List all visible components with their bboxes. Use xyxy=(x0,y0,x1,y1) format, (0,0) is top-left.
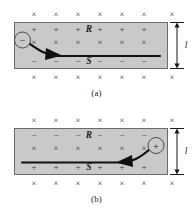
field-cross-icon: × xyxy=(32,115,37,125)
field-cross-icon: × xyxy=(142,178,147,188)
field-cross-icon: × xyxy=(170,115,175,125)
charge-minus-icon: − xyxy=(31,56,36,66)
dimension-label-l-a: l xyxy=(185,40,188,50)
figure-panel-b: × × × × × × × − − − − − − R × × × × × × xyxy=(0,106,193,213)
charge-plus-icon: + xyxy=(141,162,146,172)
field-cross-icon: × xyxy=(120,178,125,188)
field-cross-icon: × xyxy=(120,72,125,82)
field-row-above-b: × × × × × × × xyxy=(32,115,175,125)
dimension-marker-a xyxy=(170,23,184,69)
charge-minus-icon: − xyxy=(141,130,146,140)
field-cross-icon: × xyxy=(32,178,37,188)
charge-minus-icon: − xyxy=(75,56,80,66)
field-cross-icon: × xyxy=(76,37,81,47)
field-cross-icon: × xyxy=(170,72,175,82)
field-cross-icon: × xyxy=(120,115,125,125)
field-cross-icon: × xyxy=(142,9,147,19)
field-cross-icon: × xyxy=(120,9,125,19)
field-cross-icon: × xyxy=(54,9,59,19)
charge-minus-icon: − xyxy=(31,130,36,140)
charge-plus-icon: + xyxy=(53,24,58,34)
charge-plus-icon: + xyxy=(119,24,124,34)
charge-plus-icon: + xyxy=(141,24,146,34)
charge-minus-icon: − xyxy=(141,56,146,66)
field-cross-icon: × xyxy=(76,72,81,82)
field-cross-icon: × xyxy=(98,37,103,47)
field-cross-icon: × xyxy=(120,143,125,153)
field-cross-icon: × xyxy=(98,72,103,82)
field-row-below-b: × × × × × × × xyxy=(32,178,175,188)
field-row-above-a: × × × × × × × xyxy=(32,9,175,19)
field-cross-icon: × xyxy=(54,143,59,153)
field-cross-icon: × xyxy=(76,9,81,19)
charge-minus-icon: − xyxy=(119,130,124,140)
charge-minus-icon: − xyxy=(53,130,58,140)
charge-minus-icon: − xyxy=(119,56,124,66)
field-cross-icon: × xyxy=(32,143,37,153)
edge-label-R-b: R xyxy=(85,130,92,140)
field-cross-icon: × xyxy=(32,9,37,19)
field-cross-icon: × xyxy=(54,37,59,47)
field-cross-icon: × xyxy=(120,37,125,47)
figure-panel-a: × × × × × × × + + + + + + R × × × × × × xyxy=(0,0,193,107)
charge-minus-icon: − xyxy=(75,130,80,140)
charge-plus-icon: + xyxy=(31,24,36,34)
field-cross-icon: × xyxy=(98,143,103,153)
charge-minus-icon: − xyxy=(97,130,102,140)
field-cross-icon: × xyxy=(76,178,81,188)
field-cross-icon: × xyxy=(76,115,81,125)
caption-a: (a) xyxy=(0,88,193,98)
field-row-below-a: × × × × × × × xyxy=(32,72,175,82)
field-cross-icon: × xyxy=(54,178,59,188)
carrier-sign-plus-icon: + xyxy=(153,141,159,152)
field-cross-icon: × xyxy=(76,143,81,153)
field-cross-icon: × xyxy=(170,178,175,188)
field-cross-icon: × xyxy=(98,9,103,19)
edge-label-S-a: S xyxy=(86,56,91,66)
dimension-label-l-b: l xyxy=(185,146,188,156)
edge-label-R-a: R xyxy=(85,24,92,34)
carrier-sign-minus-icon: − xyxy=(20,35,26,46)
field-cross-icon: × xyxy=(32,72,37,82)
field-cross-icon: × xyxy=(54,72,59,82)
dimension-marker-b xyxy=(170,129,184,175)
field-cross-icon: × xyxy=(98,115,103,125)
field-cross-icon: × xyxy=(142,37,147,47)
caption-b: (b) xyxy=(0,194,193,204)
field-cross-icon: × xyxy=(54,115,59,125)
charge-plus-icon: + xyxy=(75,24,80,34)
charge-plus-icon: + xyxy=(97,24,102,34)
field-cross-icon: × xyxy=(170,9,175,19)
charge-minus-icon: − xyxy=(97,56,102,66)
field-cross-icon: × xyxy=(142,72,147,82)
field-cross-icon: × xyxy=(98,178,103,188)
field-cross-icon: × xyxy=(142,115,147,125)
